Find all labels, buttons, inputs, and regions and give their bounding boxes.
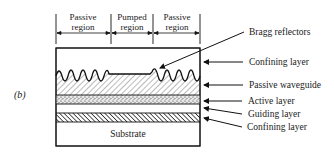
figure-label: (b): [14, 89, 26, 100]
region-label-passive-right: Passive region: [152, 12, 202, 32]
active-layer: [56, 95, 200, 104]
label-passive-waveguide: Passive waveguide: [249, 80, 321, 90]
label-guiding-layer: Guiding layer: [248, 109, 301, 119]
region-line1: Passive: [152, 12, 202, 22]
region-line1: Passive: [58, 12, 108, 22]
region-line2: region: [107, 22, 157, 32]
substrate-label: Substrate: [56, 129, 200, 139]
label-bragg-reflectors: Bragg reflectors: [249, 27, 310, 37]
lower-confining-layer: [56, 113, 200, 122]
region-line2: region: [58, 22, 108, 32]
region-line1: Pumped: [107, 12, 157, 22]
region-label-passive-left: Passive region: [58, 12, 108, 32]
label-lower-confining-layer: Confining layer: [247, 122, 307, 132]
region-line2: region: [152, 22, 202, 32]
label-upper-confining-layer: Confining layer: [249, 57, 309, 67]
label-active-layer: Active layer: [248, 96, 295, 106]
region-label-pumped: Pumped region: [107, 12, 157, 32]
